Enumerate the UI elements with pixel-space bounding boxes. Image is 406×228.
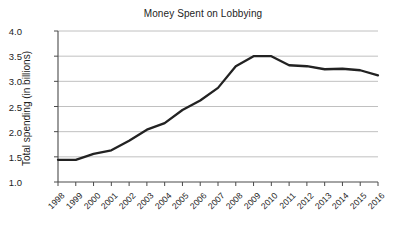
y-axis-tick-label: 2.5 xyxy=(0,101,22,112)
gridlines xyxy=(58,31,378,157)
x-axis-ticks xyxy=(58,182,378,186)
y-axis-tick-label: 3.0 xyxy=(0,76,22,87)
y-axis-tick-label: 2.0 xyxy=(0,126,22,137)
data-series-line xyxy=(58,56,378,160)
chart-plot-svg xyxy=(58,31,378,182)
plot-area xyxy=(58,31,378,182)
y-axis-tick-label: 3.5 xyxy=(0,51,22,62)
y-axis-tick-label: 1.0 xyxy=(0,177,22,188)
y-axis-title: Total spending (in billions) xyxy=(21,34,32,184)
chart-title: Money Spent on Lobbying xyxy=(0,8,406,19)
y-axis-tick-label: 4.0 xyxy=(0,26,22,37)
chart-container: Money Spent on Lobbying Total spending (… xyxy=(0,0,406,228)
y-axis-tick-label: 1.5 xyxy=(0,151,22,162)
